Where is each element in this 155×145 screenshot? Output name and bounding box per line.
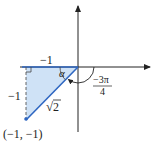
horizontal-leg-label: −1 <box>40 53 53 67</box>
angle-numerator: −3π <box>93 74 109 85</box>
vertical-leg-label: −1 <box>8 89 21 103</box>
angle-fraction-label: −3π 4 <box>93 74 112 97</box>
angle-denominator: 4 <box>100 86 105 97</box>
alpha-label: α <box>59 67 65 79</box>
point-label: (−1, −1) <box>3 127 43 141</box>
diagram-canvas: −1 −1 α √ 2 −3π 4 (−1, −1) <box>0 0 155 145</box>
hypotenuse-label: √ 2 <box>46 99 61 114</box>
sqrt-value: 2 <box>53 100 59 114</box>
point-marker <box>24 117 28 121</box>
reference-triangle-diagram: −1 −1 α √ 2 −3π 4 (−1, −1) <box>0 0 155 145</box>
